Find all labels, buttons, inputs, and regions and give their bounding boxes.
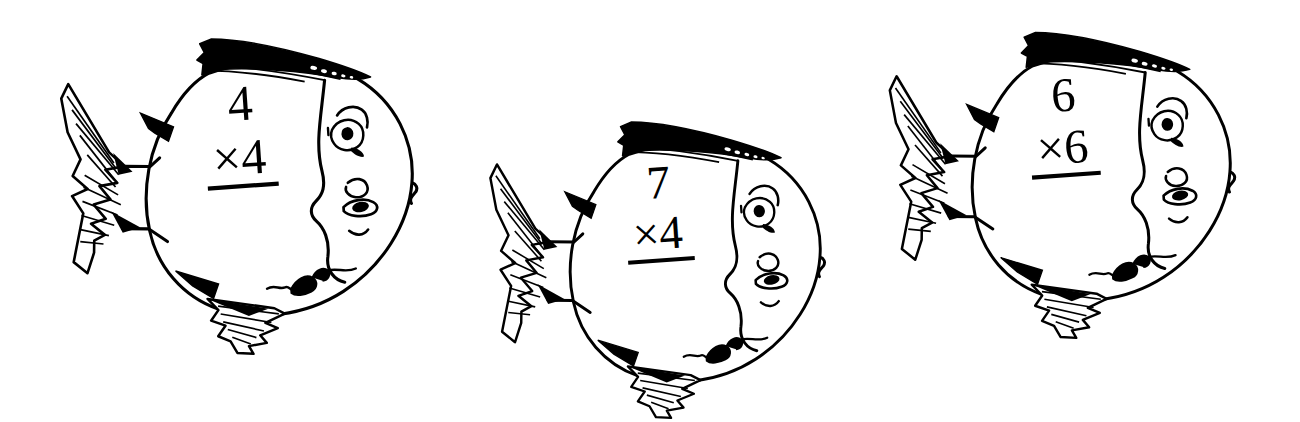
chin xyxy=(1169,217,1188,223)
anal-fin xyxy=(208,294,288,357)
fish-card-1[interactable]: 4 ×4 xyxy=(49,11,441,366)
peduncle-upper xyxy=(124,158,160,168)
peduncle-upper xyxy=(549,234,583,244)
nose xyxy=(345,178,368,198)
anal-fin xyxy=(628,361,703,420)
chin xyxy=(349,230,368,236)
face xyxy=(327,106,379,237)
nose xyxy=(1165,168,1187,187)
tail-fin xyxy=(889,72,970,261)
top-factor-1: 4 xyxy=(226,74,255,132)
peduncle-lower xyxy=(548,297,590,315)
fish-card-2[interactable]: 7 ×4 xyxy=(468,95,859,422)
pupil xyxy=(753,205,765,218)
problem-2[interactable]: 7 ×4 xyxy=(621,154,695,262)
eyebrow xyxy=(749,185,779,207)
nose xyxy=(757,253,779,272)
fish-card-3[interactable]: 6 ×6 xyxy=(867,5,1268,351)
top-factor-2: 7 xyxy=(645,156,672,210)
pupil xyxy=(341,127,354,141)
dorsal-fin xyxy=(195,28,370,90)
fish-drawing-1: 4 ×4 xyxy=(49,11,443,368)
peduncle-lower xyxy=(949,214,993,232)
tail-fin xyxy=(489,160,567,343)
body-oval xyxy=(963,45,1242,308)
dorsal-fin xyxy=(1020,22,1190,82)
top-factor-3: 6 xyxy=(1049,67,1077,122)
eyebrow xyxy=(337,106,368,130)
anal-fin xyxy=(1032,279,1109,340)
fish-drawing-3: 6 ×6 xyxy=(867,5,1271,353)
face xyxy=(1147,97,1198,224)
gill-line xyxy=(302,80,344,284)
dorsal-fin xyxy=(617,112,782,170)
gill-line xyxy=(1124,72,1165,270)
bottom-line-3: ×6 xyxy=(1035,119,1090,175)
bottom-line-2: ×4 xyxy=(631,206,684,261)
ventral-spike xyxy=(598,337,639,368)
pupil xyxy=(1161,118,1174,132)
gill-line xyxy=(717,160,757,352)
body-oval xyxy=(561,134,832,389)
tail-fin xyxy=(60,80,143,274)
worksheet-canvas: 4 ×4 xyxy=(0,0,1300,422)
peduncle-lower xyxy=(122,226,167,245)
eyebrow xyxy=(1157,97,1187,120)
chin xyxy=(761,301,779,306)
fish-drawing-2: 7 ×4 xyxy=(468,95,861,422)
problem-3[interactable]: 6 ×6 xyxy=(1025,66,1101,178)
peduncle-upper xyxy=(950,148,985,158)
problem-1[interactable]: 4 ×4 xyxy=(200,73,279,189)
bottom-line-1: ×4 xyxy=(211,128,268,188)
face xyxy=(740,185,789,308)
ventral-spike xyxy=(1001,255,1044,287)
body-oval xyxy=(137,52,425,323)
ventral-spike xyxy=(176,268,220,301)
